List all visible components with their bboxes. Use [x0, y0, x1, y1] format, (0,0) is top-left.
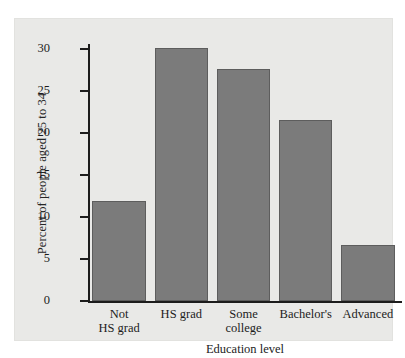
- x-tick-label-0: Not HS grad: [88, 307, 150, 335]
- y-tick-label-25: 25: [10, 84, 50, 97]
- x-tick-label-3: Bachelor's: [275, 307, 337, 321]
- y-tick-label-20: 20: [10, 126, 50, 139]
- bar-3[interactable]: [279, 120, 332, 301]
- figure: Percent of people aged 25 to 34 05101520…: [0, 0, 405, 358]
- y-tick-label-30: 30: [10, 42, 50, 55]
- x-tick-label-4: Advanced: [337, 307, 399, 321]
- x-axis-line: [88, 301, 402, 303]
- y-tick-label-15: 15: [10, 168, 50, 181]
- x-axis-label: Education level: [88, 342, 402, 357]
- bars-area: [88, 49, 399, 301]
- y-tick-label-10: 10: [10, 210, 50, 223]
- bar-1[interactable]: [155, 48, 208, 301]
- bar-2[interactable]: [217, 69, 270, 301]
- x-tick-label-1: HS grad: [150, 307, 212, 321]
- bar-4[interactable]: [341, 245, 394, 301]
- y-tick-label-0: 0: [10, 294, 50, 307]
- bar-0[interactable]: [92, 201, 145, 301]
- y-tick-label-5: 5: [10, 252, 50, 265]
- plot-panel: Percent of people aged 25 to 34 05101520…: [14, 18, 393, 341]
- x-tick-label-2: Some college: [212, 307, 274, 335]
